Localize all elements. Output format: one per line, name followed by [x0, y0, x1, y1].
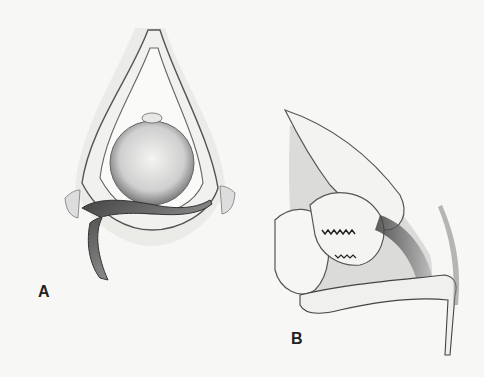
panel-label-b: B: [291, 330, 303, 348]
illustration-panel-a: [60, 18, 240, 288]
illustration-panel-b: [270, 105, 470, 365]
panel-label-a: A: [38, 283, 50, 301]
anatomical-drawing-sagittal: [270, 105, 470, 365]
anatomical-drawing-frontal: [60, 18, 240, 288]
